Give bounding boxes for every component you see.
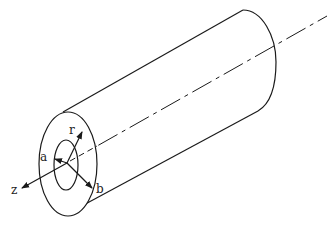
cylinder-top-edge	[63, 10, 243, 112]
label-z: z	[11, 183, 17, 197]
label-r: r	[69, 123, 75, 137]
cylinder-bottom-edge	[78, 111, 258, 208]
cylinder-axis	[67, 16, 327, 163]
label-b: b	[96, 182, 104, 196]
label-a: a	[40, 150, 47, 164]
coaxial-cylinder-diagram: r a b z	[0, 0, 336, 229]
